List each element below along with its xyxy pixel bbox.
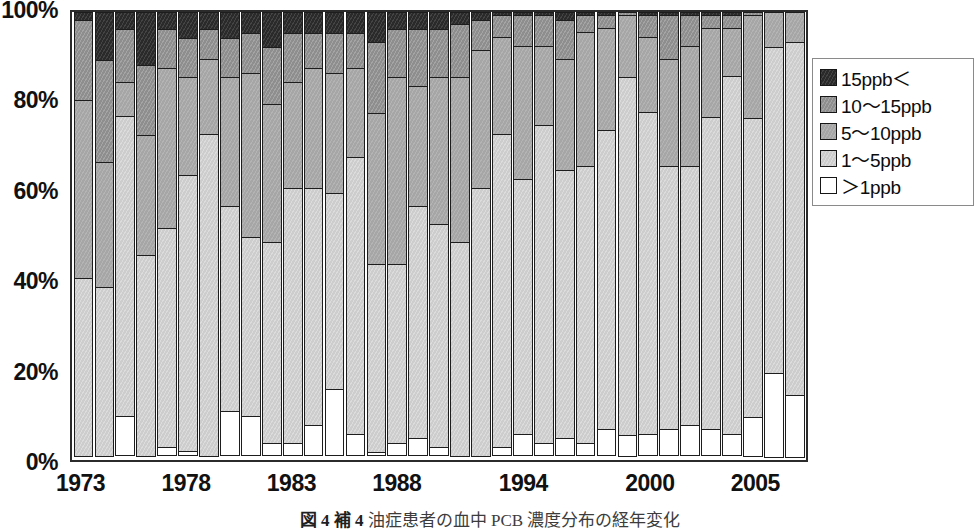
bar-segment bbox=[680, 425, 700, 456]
bar-segment bbox=[283, 443, 303, 456]
y-axis-tick: 40% bbox=[13, 268, 58, 295]
bar-segment bbox=[199, 29, 219, 60]
bar-segment bbox=[387, 443, 407, 456]
bar-segment bbox=[304, 33, 324, 69]
bar-column bbox=[387, 12, 407, 460]
bar-segment bbox=[555, 170, 575, 439]
bar-segment bbox=[387, 77, 407, 265]
bar-segment bbox=[638, 15, 658, 37]
bar-segment bbox=[115, 116, 135, 416]
bar-segment bbox=[115, 82, 135, 118]
bar-segment bbox=[367, 113, 387, 265]
bar-segment bbox=[136, 12, 156, 66]
bar-segment bbox=[618, 77, 638, 435]
bar-segment bbox=[701, 117, 721, 431]
bar-segment bbox=[157, 12, 177, 30]
bar-column bbox=[408, 12, 428, 460]
bar-segment bbox=[722, 28, 742, 77]
bar-segment bbox=[325, 73, 345, 194]
bar-column bbox=[74, 12, 94, 460]
bar-segment bbox=[408, 29, 428, 87]
bar-column bbox=[199, 12, 219, 460]
y-axis-tick: 80% bbox=[13, 87, 58, 114]
bar-segment bbox=[638, 37, 658, 113]
legend-item-label: 15ppb＜ bbox=[841, 64, 911, 91]
bar-segment bbox=[178, 451, 198, 455]
legend-swatch-icon bbox=[820, 177, 837, 194]
bar-segment bbox=[178, 12, 198, 39]
bar-segment bbox=[701, 15, 721, 28]
legend-swatch-icon bbox=[820, 150, 837, 167]
chart-legend: 15ppb＜10〜15ppb5〜10ppb1〜5ppb＞1ppb bbox=[812, 58, 974, 206]
bar-segment bbox=[157, 29, 177, 69]
bar-segment bbox=[429, 224, 449, 448]
bar-segment bbox=[576, 166, 596, 444]
bar-segment bbox=[95, 60, 115, 163]
bar-segment bbox=[304, 425, 324, 456]
bar-segment bbox=[555, 438, 575, 456]
bar-column bbox=[367, 12, 387, 460]
bar-segment bbox=[367, 264, 387, 452]
bar-segment bbox=[241, 416, 261, 456]
bar-segment bbox=[785, 12, 805, 43]
bar-segment bbox=[367, 452, 387, 456]
bar-column bbox=[576, 12, 596, 460]
bar-segment bbox=[74, 20, 94, 101]
x-axis: 1973197819831988199420002005 bbox=[70, 462, 808, 502]
bar-segment bbox=[408, 206, 428, 439]
bar-segment bbox=[367, 12, 387, 43]
bar-segment bbox=[325, 193, 345, 390]
y-axis-tick: 0% bbox=[26, 449, 58, 476]
bar-segment bbox=[262, 47, 282, 105]
x-axis-tick: 1978 bbox=[161, 470, 210, 497]
bar-segment bbox=[492, 15, 512, 37]
caption-text: 油症患者の血中 PCB 濃度分布の経年変化 bbox=[368, 511, 681, 529]
bar-segment bbox=[513, 179, 533, 434]
bar-segment bbox=[241, 33, 261, 73]
bar-segment bbox=[115, 29, 135, 83]
bar-column bbox=[534, 12, 554, 460]
bar-segment bbox=[471, 50, 491, 189]
legend-item-lt1[interactable]: ＞1ppb bbox=[820, 172, 968, 199]
bar-segment bbox=[325, 389, 345, 456]
legend-item-r1_5[interactable]: 1〜5ppb bbox=[820, 145, 968, 172]
bar-segment bbox=[555, 59, 575, 171]
x-axis-tick: 1988 bbox=[372, 470, 421, 497]
bar-segment bbox=[429, 77, 449, 225]
y-axis: 100%80%60%40%20%0% bbox=[0, 0, 64, 472]
bar-segment bbox=[220, 38, 240, 78]
bar-segment bbox=[429, 12, 449, 30]
legend-item-r5_10[interactable]: 5〜10ppb bbox=[820, 118, 968, 145]
bar-segment bbox=[534, 15, 554, 46]
bar-column bbox=[115, 12, 135, 460]
bar-segment bbox=[764, 12, 784, 48]
bar-segment bbox=[764, 47, 784, 374]
bar-segment bbox=[659, 59, 679, 167]
bar-segment bbox=[680, 46, 700, 167]
x-axis-tick: 2000 bbox=[625, 470, 674, 497]
bar-segment bbox=[597, 15, 617, 28]
legend-item-gt15[interactable]: 15ppb＜ bbox=[820, 64, 968, 91]
legend-item-label: 1〜5ppb bbox=[841, 145, 911, 172]
bar-segment bbox=[429, 447, 449, 456]
bar-column bbox=[220, 12, 240, 460]
bar-segment bbox=[157, 68, 177, 229]
bar-segment bbox=[241, 12, 261, 34]
bar-segment bbox=[136, 65, 156, 137]
bar-segment bbox=[283, 33, 303, 82]
bar-segment bbox=[157, 228, 177, 448]
bar-segment bbox=[95, 287, 115, 457]
bar-segment bbox=[450, 24, 470, 78]
bar-segment bbox=[492, 134, 512, 448]
bar-column bbox=[597, 12, 617, 460]
bar-segment bbox=[471, 20, 491, 51]
plot-area bbox=[70, 10, 808, 462]
y-axis-tick: 100% bbox=[1, 0, 58, 24]
legend-item-r10_15[interactable]: 10〜15ppb bbox=[820, 91, 968, 118]
bar-segment bbox=[115, 416, 135, 456]
bar-segment bbox=[346, 434, 366, 456]
bar-segment bbox=[220, 206, 240, 412]
bar-segment bbox=[743, 15, 763, 118]
bar-segment bbox=[262, 104, 282, 243]
caption-number: 図 4 補 4 bbox=[300, 511, 364, 529]
